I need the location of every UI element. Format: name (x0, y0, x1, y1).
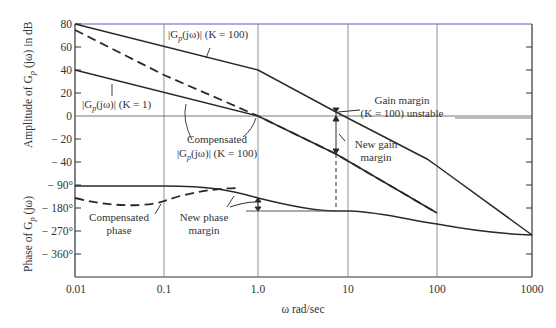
tick-neg360: − 360° (42, 248, 74, 260)
label-gain-margin-2: (K = 100) unstable (361, 107, 444, 120)
amplitude-tick-labels: 80 60 40 20 0 − 20 − 40 (51, 18, 72, 168)
y-ticks-left (75, 24, 81, 254)
label-new-phase-margin-2: margin (189, 224, 220, 236)
xtick-0.1: 0.1 (157, 283, 172, 295)
label-compensated-phase-1: Compensated (89, 211, 149, 223)
tick-80: 80 (61, 18, 73, 30)
tick-neg180: − 180° (42, 202, 74, 214)
tick-neg270: − 270° (42, 225, 74, 237)
tick-neg90: − 90° (48, 179, 74, 191)
annotation-leaders (112, 48, 256, 214)
xtick-0.01: 0.01 (66, 283, 86, 295)
label-compensated-amplitude-2: |Gp(jω)| (K = 100) (177, 147, 258, 162)
phase-tick-labels: − 90° − 180° − 270° − 360° (42, 179, 74, 260)
x-axis-title: ω rad/sec (281, 303, 324, 315)
label-new-gain-margin-1: New gain (355, 138, 398, 150)
x-tick-labels: 0.01 0.1 1.0 10 100 1000 (66, 283, 544, 295)
label-compensated-amplitude-1: Compensated (187, 133, 247, 145)
tick-40: 40 (61, 64, 73, 76)
svg-text:Phase of Gp (jω): Phase of Gp (jω) (22, 196, 37, 272)
label-compensated-phase-2: phase (106, 224, 131, 236)
tick-neg40: − 40 (51, 156, 72, 168)
xtick-1000: 1000 (521, 283, 544, 295)
svg-text:Amplitude of Gp (jω) in dB: Amplitude of Gp (jω) in dB (22, 21, 37, 148)
series-k100-amplitude (75, 24, 532, 235)
series-compensated-phase (75, 188, 240, 205)
label-k1: |Gp(jω)| (K = 1) (82, 98, 152, 113)
tick-neg20: − 20 (51, 133, 72, 145)
label-gain-margin-1: Gain margin (374, 94, 430, 106)
grid-lines (75, 24, 532, 277)
label-k100: |Gp(jω)| (K = 100) (168, 28, 249, 43)
y-axis-title-phase: Phase of Gp (jω) (22, 196, 37, 272)
y-axis-title-amplitude: Amplitude of Gp (jω) in dB (22, 21, 37, 148)
y-ticks-right (526, 47, 532, 254)
xtick-10: 10 (342, 283, 354, 295)
xtick-1.0: 1.0 (251, 283, 266, 295)
bode-plot: 80 60 40 20 0 − 20 − 40 − 90° − 180° − 2… (0, 0, 556, 328)
label-new-gain-margin-2: margin (361, 151, 392, 163)
label-new-phase-margin-1: New phase (180, 211, 229, 223)
tick-20: 20 (61, 87, 73, 99)
tick-0: 0 (66, 110, 72, 122)
xtick-100: 100 (428, 283, 446, 295)
plot-frame (75, 24, 532, 277)
tick-60: 60 (61, 41, 73, 53)
